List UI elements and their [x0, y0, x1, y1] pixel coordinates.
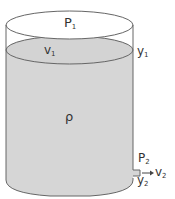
label-p1-sub: 1 [72, 23, 76, 31]
label-v1-sub: 1 [51, 50, 55, 58]
label-p1: P1 [64, 17, 76, 33]
label-p1-base: P [64, 15, 72, 30]
label-y2-sub: 2 [144, 180, 148, 188]
label-p2-sub: 2 [145, 158, 149, 166]
label-y2: y2 [137, 174, 149, 190]
label-y1: y1 [137, 45, 149, 61]
label-rho: ρ [65, 111, 73, 123]
label-v2-sub: 2 [162, 172, 166, 180]
label-v2: v2 [155, 166, 167, 182]
label-p2: P2 [138, 152, 150, 168]
fluid-surface [6, 36, 133, 64]
label-rho-base: ρ [65, 109, 73, 124]
arrow-head-icon [150, 171, 154, 176]
tank-diagram [0, 0, 175, 199]
label-y1-sub: 1 [144, 51, 148, 59]
label-v1: v1 [44, 44, 56, 60]
